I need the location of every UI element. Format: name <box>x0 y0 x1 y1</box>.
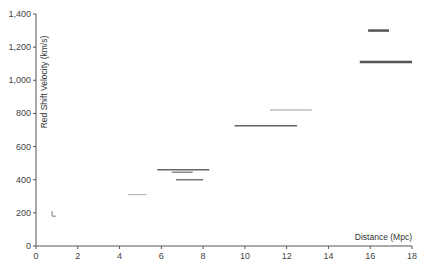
y-tick-label: 600 <box>16 142 31 152</box>
x-axis-title: Distance (Mpc) <box>355 232 412 242</box>
y-tick-label: 1,200 <box>8 42 31 52</box>
x-tick-label: 18 <box>407 251 417 261</box>
y-tick-label: 1,400 <box>8 9 31 19</box>
x-tick-label: 10 <box>240 251 250 261</box>
data-segment <box>52 211 56 216</box>
y-tick-label: 800 <box>16 108 31 118</box>
x-tick-label: 0 <box>33 251 38 261</box>
y-tick-label: 1,000 <box>8 75 31 85</box>
chart: 02004006008001,0001,2001,400 02468101214… <box>0 0 427 272</box>
data-segments <box>52 31 412 217</box>
y-tick-label: 0 <box>26 241 31 251</box>
x-tick-label: 6 <box>159 251 164 261</box>
x-tick-label: 2 <box>75 251 80 261</box>
y-axis: 02004006008001,0001,2001,400 <box>8 9 36 251</box>
x-tick-label: 4 <box>117 251 122 261</box>
x-tick-label: 14 <box>323 251 333 261</box>
x-tick-label: 8 <box>201 251 206 261</box>
y-axis-title: Red Shift Velocity (km/s) <box>39 36 49 129</box>
x-tick-label: 12 <box>282 251 292 261</box>
y-tick-label: 400 <box>16 175 31 185</box>
x-tick-label: 16 <box>365 251 375 261</box>
y-tick-label: 200 <box>16 208 31 218</box>
x-axis: 024681012141618 <box>33 246 417 261</box>
